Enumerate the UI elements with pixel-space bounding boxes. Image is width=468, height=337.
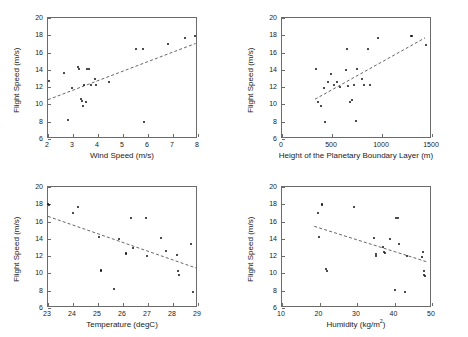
- x-tick-label: 8: [195, 141, 199, 148]
- y-axis-title: Flight Speed (m/s): [13, 217, 22, 282]
- y-tick-label: 8: [39, 286, 43, 293]
- y-tick-label: 16: [269, 217, 277, 224]
- x-axis-title: Humidity (kg/m2): [326, 321, 385, 330]
- y-axis-title: Flight Speed (m/s): [13, 48, 22, 113]
- x-axis-title-base: Humidity (kg/m: [326, 320, 379, 329]
- data-point: [425, 44, 427, 46]
- y-tick: [282, 308, 285, 309]
- data-point: [382, 246, 384, 248]
- x-tick-label: 50: [427, 310, 435, 317]
- x-tick-label: 3: [70, 141, 74, 148]
- y-tick-label: 20: [269, 14, 277, 21]
- y-tick-label: 10: [269, 100, 277, 107]
- data-point: [421, 256, 423, 258]
- data-point: [67, 119, 69, 121]
- data-point: [423, 270, 425, 272]
- data-point: [389, 238, 391, 240]
- data-point: [113, 288, 115, 290]
- y-tick-label: 18: [269, 31, 277, 38]
- trend-line: [48, 18, 198, 139]
- x-tick-label: 24: [68, 310, 76, 317]
- x-tick: [198, 134, 199, 137]
- data-point: [324, 121, 326, 123]
- x-tick-label: 26: [118, 310, 126, 317]
- data-point: [397, 217, 399, 219]
- data-point: [184, 37, 186, 39]
- data-point: [81, 100, 83, 102]
- data-point: [165, 250, 167, 252]
- data-point: [48, 204, 50, 206]
- data-point: [317, 101, 319, 103]
- y-tick-label: 16: [35, 217, 43, 224]
- data-point: [143, 121, 145, 123]
- data-point: [178, 274, 180, 276]
- y-tick-label: 6: [39, 135, 43, 142]
- data-point: [339, 86, 341, 88]
- x-tick-label: 40: [390, 310, 398, 317]
- data-point: [373, 237, 375, 239]
- data-point: [356, 68, 358, 70]
- x-axis-title: Height of the Planetary Boundary Layer (…: [279, 152, 433, 161]
- x-tick-label: 29: [193, 310, 201, 317]
- x-tick: [432, 303, 433, 306]
- data-point: [146, 255, 148, 257]
- data-point: [315, 68, 317, 70]
- y-tick-label: 14: [269, 234, 277, 241]
- data-point: [367, 48, 369, 50]
- x-axis-title: Temperature (degC): [86, 321, 158, 330]
- data-point: [94, 78, 96, 80]
- data-point: [85, 101, 87, 103]
- data-point: [347, 85, 349, 87]
- x-tick-label: 7: [170, 141, 174, 148]
- y-tick-label: 10: [35, 100, 43, 107]
- y-tick-label: 16: [269, 48, 277, 55]
- figure-canvas: 234567868101214161820Flight Speed (m/s)W…: [0, 0, 468, 337]
- data-point: [192, 291, 194, 293]
- x-tick-label: 10: [277, 310, 285, 317]
- data-point: [345, 69, 347, 71]
- trend-line: [282, 187, 432, 308]
- data-point: [82, 105, 84, 107]
- data-point: [194, 35, 196, 37]
- data-point: [108, 81, 110, 83]
- data-point: [321, 204, 323, 206]
- y-axis-title: Flight Speed (m/s): [247, 48, 256, 113]
- data-point: [349, 101, 351, 103]
- data-point: [323, 87, 325, 89]
- y-tick-label: 10: [35, 269, 43, 276]
- x-tick-label: 5: [120, 141, 124, 148]
- data-point: [190, 243, 192, 245]
- data-point: [90, 84, 92, 86]
- data-point: [398, 243, 400, 245]
- data-point: [394, 289, 396, 291]
- data-point: [377, 37, 379, 39]
- y-tick-label: 18: [35, 31, 43, 38]
- data-point: [48, 80, 50, 82]
- data-point: [384, 252, 386, 254]
- x-tick-label: 500: [325, 141, 337, 148]
- x-tick-label: 0: [279, 141, 283, 148]
- y-tick-label: 20: [269, 183, 277, 190]
- data-point: [98, 236, 100, 238]
- x-tick-label: 25: [93, 310, 101, 317]
- data-point: [336, 81, 338, 83]
- data-point: [422, 251, 424, 253]
- data-point: [83, 84, 85, 86]
- y-tick-label: 18: [35, 200, 43, 207]
- data-point: [320, 105, 322, 107]
- data-point: [72, 212, 74, 214]
- x-tick-label: 28: [168, 310, 176, 317]
- data-point: [63, 72, 65, 74]
- data-point: [355, 120, 357, 122]
- plot-area: [281, 186, 431, 307]
- y-axis-title: Flight Speed (m/s): [247, 217, 256, 282]
- data-point: [125, 253, 127, 255]
- y-tick-label: 8: [273, 286, 277, 293]
- data-point: [100, 270, 102, 272]
- data-point: [135, 48, 137, 50]
- plot-area: [47, 186, 197, 307]
- x-tick-label: 4: [95, 141, 99, 148]
- data-point: [317, 212, 319, 214]
- data-point: [160, 237, 162, 239]
- data-point: [142, 48, 144, 50]
